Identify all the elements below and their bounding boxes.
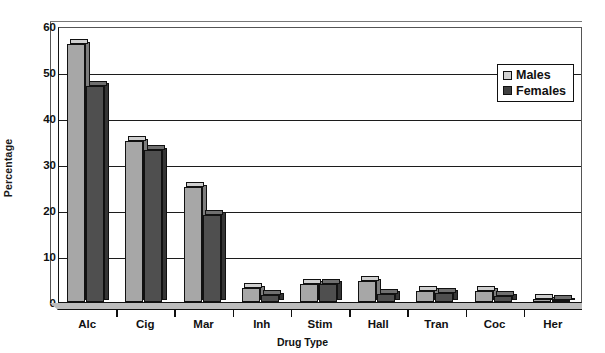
legend-item-males: Males [503,69,566,82]
bar-face [144,150,162,302]
plot-floor [50,303,582,310]
bar-face [242,288,260,302]
bar-top-face [380,289,398,294]
bar-top-face [205,210,223,215]
bar-side-face [104,83,109,299]
bar-face [300,284,318,302]
bar-top-face [147,145,165,150]
y-axis-tick-label: 20 [26,205,56,217]
x-axis-tick-label: Cig [136,318,155,330]
bar-tran-males [416,291,434,303]
bar-group [300,26,342,302]
bar-side-face [337,281,342,299]
bar-cig-females [144,150,162,302]
bar-her-females [552,300,570,302]
bar-top-face [496,291,514,296]
x-axis-tick-mark [116,310,117,317]
bar-tran-females [435,293,453,302]
bar-top-face [244,283,262,288]
y-axis-label: Percentage [2,0,14,108]
bar-top-face [535,294,553,299]
y-axis-tick-label: 10 [26,251,56,263]
x-axis-tick-label: Hall [368,318,389,330]
y-axis-tick-label: 30 [26,159,56,171]
dark-gray-swatch-icon [503,86,512,95]
bar-mar-males [184,187,202,302]
x-axis-tick-label: Mar [193,318,213,330]
legend-item-females: Females [503,85,566,98]
bar-top-face [128,136,146,141]
bar-face [203,215,221,302]
x-axis-tick-mark [174,310,175,317]
bar-face [475,291,493,303]
y-axis-tick-label: 50 [26,67,56,79]
x-axis-tick-mark [233,310,234,317]
bar-chart: Percentage 0102030405060 AlcCigMarInhSti… [0,0,605,353]
bar-stim-males [300,284,318,302]
bar-inh-males [242,288,260,302]
bar-her-males [533,299,551,302]
bar-inh-females [261,295,279,302]
y-axis-tick-label: 40 [26,113,56,125]
bar-alc-females [86,86,104,302]
bar-top-face [70,39,88,44]
bar-face [86,86,104,302]
y-axis-label-text: Percentage [2,108,14,228]
bar-face [261,295,279,302]
x-axis-tick-label: Alc [78,318,96,330]
x-axis-tick-label: Tran [424,318,448,330]
bar-side-face [162,148,167,300]
x-axis-tick-label: Her [543,318,562,330]
bar-face [319,284,337,302]
x-axis-tick-mark [407,310,408,317]
bar-top-face [263,290,281,295]
bar-top-face [554,295,572,300]
bar-top-face [303,279,321,284]
bar-face [184,187,202,302]
bar-face [552,300,570,302]
bar-alc-males [67,44,85,302]
x-axis-label: Drug Type [0,336,605,348]
x-axis-tick-label: Inh [253,318,270,330]
bar-cig-males [125,141,143,302]
x-axis-tick-mark [466,310,467,317]
bar-group [416,26,458,302]
bar-top-face [186,182,204,187]
bar-face [377,294,395,302]
bar-face [358,281,376,302]
bar-face [67,44,85,302]
bar-group [67,26,109,302]
bar-group [358,26,400,302]
legend: Males Females [497,64,574,102]
bar-side-face [221,212,226,299]
bar-face [125,141,143,302]
bar-coc-males [475,291,493,303]
bar-top-face [89,81,107,86]
bar-group [184,26,226,302]
bar-stim-females [319,284,337,302]
bar-hall-females [377,294,395,302]
bar-top-face [322,279,340,284]
bar-coc-females [494,296,512,302]
x-axis-tick-label: Stim [308,318,333,330]
x-axis-tick-mark [291,310,292,317]
bar-face [435,293,453,302]
bar-top-face [419,286,437,291]
bar-top-face [361,276,379,281]
bar-top-face [477,286,495,291]
light-gray-swatch-icon [503,71,512,80]
legend-label-males: Males [516,69,551,82]
bar-top-face [438,288,456,293]
legend-label-females: Females [516,85,566,98]
y-axis-tick-label: 60 [26,21,56,33]
bar-mar-females [203,215,221,302]
bar-hall-males [358,281,376,302]
bar-face [416,291,434,303]
bar-group [125,26,167,302]
y-axis-ticks: 0102030405060 [20,0,56,353]
x-axis-tick-label: Coc [484,318,506,330]
bar-face [533,299,551,302]
x-axis-tick-mark [349,310,350,317]
x-axis-tick-mark [524,310,525,317]
bar-group [242,26,284,302]
